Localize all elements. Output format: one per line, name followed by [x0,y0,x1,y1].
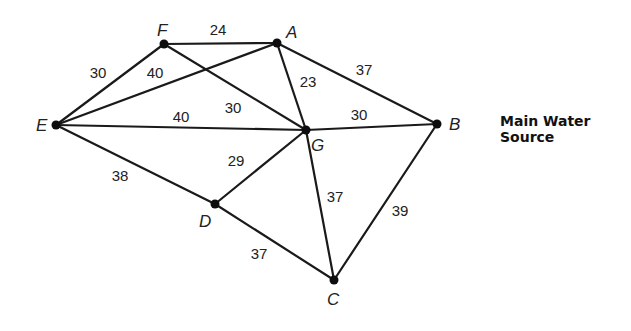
edge-weight-G-B: 30 [351,106,368,123]
edge-E-A [56,43,277,125]
edge-layer [56,43,437,280]
edge-weight-D-G: 29 [228,152,245,169]
node-D [211,200,220,209]
edge-weight-A-G: 23 [300,73,317,90]
edge-E-F [56,44,164,125]
node-F [160,40,169,49]
node-A [273,39,282,48]
edge-weight-E-F: 30 [90,64,107,81]
edge-weight-B-C: 39 [392,202,409,219]
edge-weight-E-A: 40 [147,64,164,81]
node-label-G: G [311,136,324,155]
node-label-E: E [36,116,48,135]
node-label-C: C [327,290,340,309]
edge-G-B [306,124,437,130]
main-water-source-label: Main Water Source [500,113,620,145]
node-label-F: F [157,21,169,40]
node-layer [52,39,442,285]
node-label-B: B [449,115,460,134]
edge-weight-G-C: 37 [327,188,344,205]
edge-weight-F-A: 24 [210,21,227,38]
weighted-graph: 24304030402337303829373937 ABCDEFG [0,0,631,331]
edge-B-C [334,124,437,280]
node-label-D: D [199,212,211,231]
edge-weight-E-D: 38 [112,167,129,184]
annotation-line-2: Source [500,129,620,145]
edge-E-G [56,125,306,130]
node-C [330,276,339,285]
node-G [302,126,311,135]
edge-weight-A-B: 37 [356,61,373,78]
edge-weight-E-G: 40 [173,108,190,125]
edge-weight-D-C: 37 [251,245,268,262]
node-label-A: A [285,23,297,42]
edge-E-D [56,125,215,204]
edge-F-A [164,43,277,44]
edge-weight-F-G: 30 [225,99,242,116]
node-E [52,121,61,130]
edge-D-C [215,204,334,280]
node-B [433,120,442,129]
annotation-line-1: Main Water [500,113,620,129]
